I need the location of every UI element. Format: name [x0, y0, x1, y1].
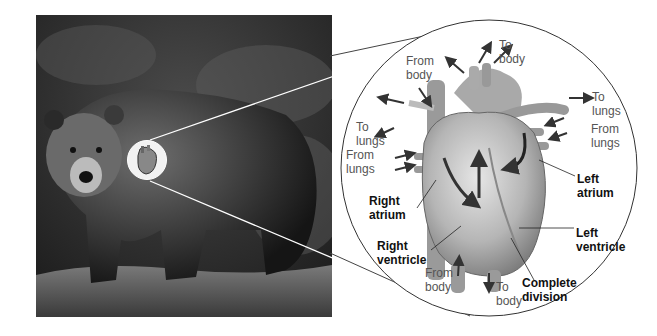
label-from-body-top: From body	[406, 54, 434, 82]
label-left-ventricle: Left ventricle	[576, 226, 625, 254]
label-from-lungs-right: From lungs	[591, 122, 620, 150]
label-to-lungs-right: To lungs	[592, 90, 621, 118]
heart-thumbnail	[127, 140, 167, 180]
label-left-atrium: Left atrium	[577, 172, 614, 200]
heart-diagram	[339, 18, 639, 318]
label-to-body-bottom: To body	[496, 280, 522, 308]
label-right-ventricle: Right ventricle	[377, 239, 426, 267]
label-to-lungs-left: To lungs	[356, 120, 385, 148]
label-from-body-bottom: From body	[425, 266, 453, 294]
label-to-body-top: To body	[499, 38, 525, 66]
label-from-lungs-left: From lungs	[346, 148, 375, 176]
heart-inset: From body To body To lungs From lungs To…	[339, 18, 639, 318]
heart-thumbnail-icon	[128, 141, 166, 179]
label-complete-division: Complete division	[522, 276, 577, 304]
label-right-atrium: Right atrium	[369, 194, 406, 222]
